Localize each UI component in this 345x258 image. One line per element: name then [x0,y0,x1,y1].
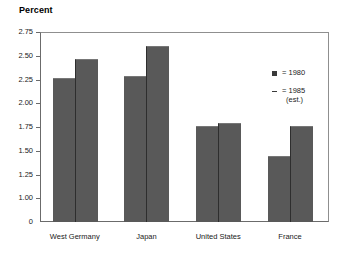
y-axis-tick-mark [36,56,40,57]
y-axis-tick-label: 2.50 [18,51,33,60]
bar-1985-est- [218,123,241,222]
bar-group [113,33,185,222]
x-axis-label: Japan [136,232,156,242]
y-axis-tick-label: 0 [29,217,33,226]
chart-container: Percent 2.752.502.252.001.751.501.251.00… [0,0,345,258]
y-axis-tick-label: 2.75 [18,27,33,36]
y-axis-tick-label: 2.25 [18,75,33,84]
bar-1985-est- [146,46,169,222]
legend-item-1985: = 1985 (est.) [272,86,332,96]
x-axis-label: France [278,232,301,242]
chart-legend: = 1980 = 1985 (est.) [272,68,332,104]
chart-title: Percent [19,5,53,16]
y-axis: 2.752.502.252.001.751.501.251.000 [0,32,40,222]
dash-marker-icon [272,91,277,92]
y-axis-tick-mark [36,80,40,81]
bar-1980 [124,76,146,222]
y-axis-tick-label: 1.25 [18,170,33,179]
bar-1980 [196,126,218,222]
legend-item-1980: = 1980 [272,68,332,78]
bar-1980 [53,78,75,222]
bar-1985-est- [75,59,98,222]
y-axis-tick-mark [36,103,40,104]
y-axis-tick-label: 1.75 [18,122,33,131]
x-axis-label: United States [196,232,241,242]
y-axis-tick-mark [36,175,40,176]
y-axis-tick-label: 1.00 [18,193,33,202]
y-axis-tick-mark [36,32,40,33]
legend-label-1980: = 1980 [282,68,305,78]
bar-1980 [268,156,290,222]
bar-1985-est- [290,126,313,222]
y-axis-tick-label: 1.50 [18,146,33,155]
y-axis-tick-mark [36,151,40,152]
bar-group [185,33,257,222]
y-axis-tick-mark [36,127,40,128]
bars-layer [41,33,328,222]
y-axis-tick-mark [36,198,40,199]
bar-group [41,33,113,222]
legend-label-1985-sub: (est.) [286,95,303,105]
y-axis-tick-label: 2.00 [18,98,33,107]
bar-group [256,33,328,222]
x-axis-label: West Germany [50,232,100,242]
x-axis-labels: West GermanyJapanUnited StatesFrance [41,232,328,246]
dot-marker-icon [272,71,277,76]
